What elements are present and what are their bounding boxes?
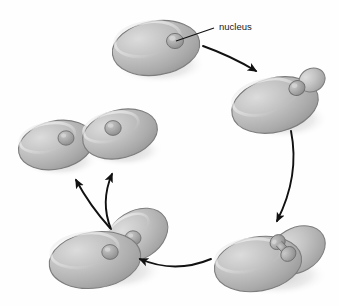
nucleus — [58, 131, 74, 145]
arrow-stage2-to-stage3 — [277, 131, 294, 221]
mother-nucleus-highlight — [105, 247, 110, 251]
nucleus-label: nucleus — [219, 21, 252, 32]
arrow-stage1-to-stage2 — [203, 46, 256, 71]
nucleus — [105, 121, 121, 136]
cycle-illustration: nucleus — [0, 0, 339, 306]
nucleus-highlight — [169, 36, 175, 41]
nucleus — [167, 33, 184, 48]
nucleus-highlight — [292, 83, 298, 88]
arrow-stage4-to-daughter-right — [106, 174, 112, 229]
daughter-nucleus-highlight — [128, 234, 133, 238]
mother-nucleus — [102, 245, 118, 260]
nucleus-highlight — [108, 123, 113, 127]
yeast-budding-diagram: nucleus — [0, 0, 339, 306]
nucleus-highlight — [61, 134, 66, 138]
